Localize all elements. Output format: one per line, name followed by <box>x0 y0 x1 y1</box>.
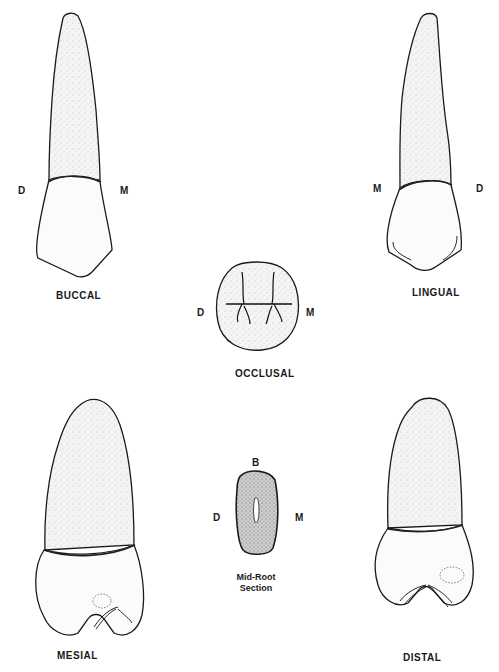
buccal-crown <box>36 176 112 276</box>
mesial-root <box>45 400 134 550</box>
section-buccal-mark: B <box>252 457 259 468</box>
occlusal-distal-mark: D <box>197 307 204 318</box>
lingual-mesial-mark: M <box>373 183 381 194</box>
occlusal-label: OCCLUSAL <box>235 368 295 379</box>
section-distal-mark: D <box>213 512 220 523</box>
mid-root-label-line1: Mid-Root <box>226 572 286 583</box>
mesial-tooth-drawing <box>30 395 145 645</box>
occlusal-mesial-mark: M <box>306 307 314 318</box>
lingual-label: LINGUAL <box>412 287 460 298</box>
lingual-crown <box>387 181 461 271</box>
distal-tooth-drawing <box>370 395 485 625</box>
distal-crown <box>375 525 473 605</box>
occlusal-outline <box>217 262 299 350</box>
buccal-distal-mark: D <box>18 185 25 196</box>
mesial-crown <box>36 545 144 635</box>
mesial-label: MESIAL <box>57 650 98 661</box>
distal-label: DISTAL <box>403 652 441 663</box>
lingual-distal-mark: D <box>476 183 483 194</box>
mid-root-label-line2: Section <box>226 583 286 594</box>
buccal-root <box>49 13 100 180</box>
mid-root-section-drawing <box>233 470 279 556</box>
occlusal-tooth-drawing <box>212 262 302 354</box>
lingual-tooth-drawing <box>385 10 475 270</box>
mid-root-label: Mid-Root Section <box>226 572 286 594</box>
buccal-mesial-mark: M <box>120 185 128 196</box>
buccal-tooth-drawing <box>30 10 120 285</box>
lingual-root <box>400 14 451 189</box>
distal-root <box>388 398 462 528</box>
section-pulp-canal <box>254 498 260 523</box>
section-mesial-mark: M <box>295 512 303 523</box>
buccal-label: BUCCAL <box>56 290 101 301</box>
